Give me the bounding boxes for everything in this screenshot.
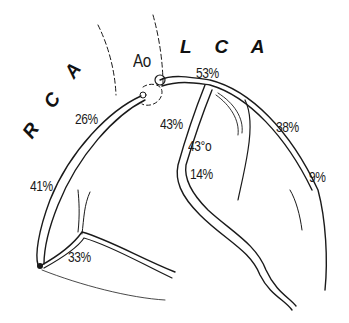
circumflex-percent: 38%: [276, 118, 299, 135]
lca-label: L C A: [180, 36, 274, 58]
coronary-artery-drawing: [0, 0, 349, 323]
lad-mid-percent: 43°o: [188, 137, 211, 154]
lad-proximal-percent: 43%: [160, 115, 183, 132]
rca-mid-percent: 41%: [30, 177, 53, 194]
aorta-label: Ao: [133, 50, 151, 72]
circumflex-distal-percent: 9%: [309, 168, 326, 185]
lad-distal-percent: 14%: [190, 165, 213, 182]
rca-proximal-percent: 26%: [75, 110, 98, 127]
lca-main-percent: 53%: [196, 64, 219, 81]
rca-distal-percent: 33%: [68, 248, 91, 265]
